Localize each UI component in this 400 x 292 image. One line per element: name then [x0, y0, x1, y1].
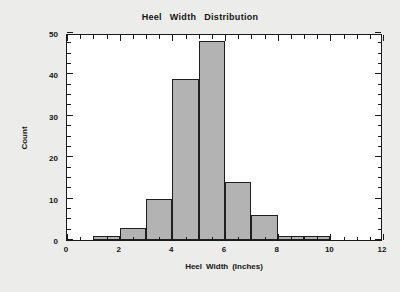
x-axis-title-word-3: (Inches)	[232, 262, 263, 271]
y-tick-minor	[67, 53, 71, 54]
x-tick-top-minor	[265, 35, 266, 39]
y-tick-right-minor	[378, 125, 382, 126]
y-tick-minor	[67, 84, 71, 85]
x-tick-major	[383, 234, 384, 240]
x-tick-top-minor	[370, 35, 371, 39]
x-tick-top-minor	[199, 35, 200, 39]
y-tick-right-minor	[378, 187, 382, 188]
x-tick-top-major	[225, 35, 226, 41]
y-tick-right-minor	[378, 208, 382, 209]
y-tick-right-major	[375, 32, 381, 33]
chart-title: HeelWidthDistribution	[0, 12, 400, 22]
x-tick-minor	[291, 237, 292, 241]
x-tick-minor	[93, 237, 94, 241]
x-tick-top-minor	[344, 35, 345, 39]
y-tick-right-major	[375, 198, 381, 199]
x-tick-label: 4	[169, 245, 173, 254]
y-tick-minor	[67, 125, 71, 126]
x-tick-top-minor	[133, 35, 134, 39]
y-tick-right-minor	[378, 84, 382, 85]
y-tick-major	[67, 156, 73, 157]
y-tick-minor	[67, 104, 71, 105]
x-tick-top-major	[383, 35, 384, 41]
y-tick-major	[67, 73, 73, 74]
y-tick-minor	[67, 208, 71, 209]
x-tick-major	[225, 234, 226, 240]
x-tick-label: 2	[116, 245, 120, 254]
x-axis-title: HeelWidth(Inches)	[66, 262, 382, 271]
x-tick-minor	[199, 237, 200, 241]
x-tick-major	[330, 234, 331, 240]
x-tick-minor	[370, 237, 371, 241]
x-tick-minor	[344, 237, 345, 241]
x-tick-top-minor	[80, 35, 81, 39]
histogram-figure: HeelWidthDistribution 024681012010203040…	[0, 0, 400, 292]
x-tick-top-minor	[357, 35, 358, 39]
x-tick-minor	[80, 237, 81, 241]
x-tick-top-minor	[251, 35, 252, 39]
x-tick-top-minor	[186, 35, 187, 39]
x-tick-top-minor	[238, 35, 239, 39]
y-tick-right-minor	[378, 136, 382, 137]
y-tick-minor	[67, 42, 71, 43]
x-tick-minor	[304, 237, 305, 241]
x-tick-label: 8	[274, 245, 278, 254]
chart-title-word-3: Distribution	[204, 12, 258, 22]
y-tick-right-minor	[378, 63, 382, 64]
y-tick-major	[67, 239, 73, 240]
x-tick-top-minor	[212, 35, 213, 39]
x-tick-top-major	[120, 35, 121, 41]
chart-title-word-2: Width	[170, 12, 196, 22]
x-tick-minor	[251, 237, 252, 241]
x-tick-major	[278, 234, 279, 240]
x-tick-top-major	[330, 35, 331, 41]
x-tick-minor	[159, 237, 160, 241]
histogram-bar	[199, 41, 225, 240]
x-tick-major	[172, 234, 173, 240]
y-tick-right-minor	[378, 177, 382, 178]
y-tick-minor	[67, 146, 71, 147]
x-tick-top-major	[278, 35, 279, 41]
x-tick-minor	[238, 237, 239, 241]
x-tick-minor	[212, 237, 213, 241]
x-tick-minor	[317, 237, 318, 241]
y-tick-minor	[67, 63, 71, 64]
plot-frame	[66, 34, 382, 241]
x-tick-label: 12	[378, 245, 387, 254]
y-tick-right-minor	[378, 94, 382, 95]
x-tick-minor	[107, 237, 108, 241]
x-tick-minor	[265, 237, 266, 241]
x-tick-top-major	[172, 35, 173, 41]
x-tick-minor	[186, 237, 187, 241]
x-axis-title-word-2: Width	[206, 262, 228, 271]
y-tick-right-minor	[378, 53, 382, 54]
y-tick-major	[67, 115, 73, 116]
chart-title-word-1: Heel	[142, 12, 162, 22]
y-tick-major	[67, 198, 73, 199]
y-tick-minor	[67, 187, 71, 188]
histogram-bar	[172, 79, 198, 240]
y-tick-minor	[67, 136, 71, 137]
x-tick-top-minor	[93, 35, 94, 39]
histogram-bar	[146, 199, 172, 240]
y-tick-right-major	[375, 156, 381, 157]
x-tick-label: 10	[325, 245, 334, 254]
y-tick-right-minor	[378, 42, 382, 43]
x-tick-top-minor	[146, 35, 147, 39]
y-tick-minor	[67, 177, 71, 178]
y-tick-right-minor	[378, 104, 382, 105]
x-tick-minor	[357, 237, 358, 241]
y-tick-minor	[67, 218, 71, 219]
x-tick-minor	[133, 237, 134, 241]
y-tick-right-major	[375, 73, 381, 74]
x-tick-top-major	[67, 35, 68, 41]
x-tick-top-minor	[304, 35, 305, 39]
x-tick-top-minor	[317, 35, 318, 39]
x-tick-major	[120, 234, 121, 240]
y-tick-right-minor	[378, 167, 382, 168]
x-tick-label: 6	[222, 245, 226, 254]
y-tick-right-major	[375, 239, 381, 240]
x-tick-label: 0	[64, 245, 68, 254]
x-tick-top-minor	[291, 35, 292, 39]
y-tick-minor	[67, 167, 71, 168]
